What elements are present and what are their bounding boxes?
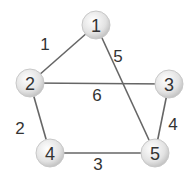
graph-diagram: 156243 12345 (0, 0, 196, 183)
node-label: 2 (25, 74, 35, 94)
edge-weight-label: 2 (15, 119, 24, 138)
node-label: 1 (91, 16, 101, 36)
edge-weight-label: 6 (92, 86, 101, 105)
edge-weight-label: 4 (168, 115, 177, 134)
node-label: 3 (164, 75, 174, 95)
edge-2-3 (30, 83, 169, 84)
edge-weight-label: 1 (40, 35, 49, 54)
node-label: 5 (150, 144, 160, 164)
edge-weight-label: 5 (113, 47, 122, 66)
node-label: 4 (45, 144, 55, 164)
edge-weight-label: 3 (93, 155, 102, 174)
edge-1-5 (96, 25, 155, 153)
graph-canvas: 156243 12345 (0, 0, 196, 183)
